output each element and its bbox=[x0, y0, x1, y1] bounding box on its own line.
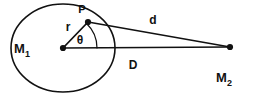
polar-angle-label: θ bbox=[77, 33, 84, 47]
secondary-body-label-subscript: 2 bbox=[227, 78, 232, 88]
secondary-body-label: M2 bbox=[216, 70, 232, 88]
primary-body-label: M1 bbox=[14, 41, 30, 59]
segment-D-label: D bbox=[129, 58, 138, 72]
angle-arc bbox=[86, 23, 97, 48]
diagram-canvas: M1 M2 P r D d θ bbox=[0, 0, 253, 95]
primary-body-label-text: M bbox=[14, 41, 25, 56]
segment-r-label: r bbox=[66, 20, 71, 34]
primary-body-label-subscript: 1 bbox=[25, 49, 30, 59]
center-point-dot bbox=[60, 45, 66, 51]
segment-d-line bbox=[88, 22, 230, 47]
two-body-diagram: M1 M2 P r D d θ bbox=[0, 0, 253, 95]
surface-point-dot bbox=[85, 19, 91, 25]
secondary-body-label-text: M bbox=[216, 70, 227, 85]
secondary-body-dot bbox=[227, 44, 233, 50]
segment-d-label: d bbox=[149, 13, 156, 27]
surface-point-label: P bbox=[78, 3, 85, 15]
segment-D-line bbox=[63, 47, 230, 48]
